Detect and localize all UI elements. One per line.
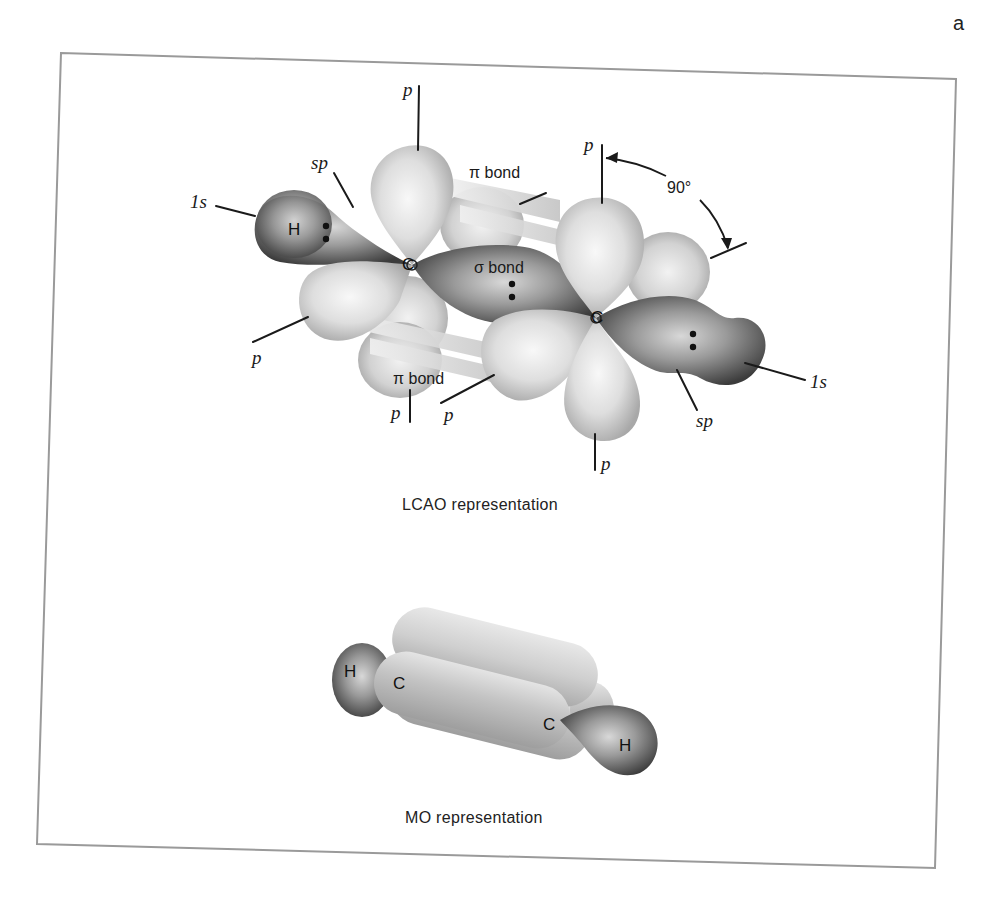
mo-label-carbon-right: C: [543, 716, 555, 733]
label-sigma-bond: σ bond: [474, 260, 524, 276]
label-p-top-right: p: [584, 135, 594, 154]
mo-diagram: [332, 601, 658, 776]
label-hydrogen-left: H: [288, 221, 300, 238]
label-1s-left: 1s: [190, 192, 207, 211]
label-sp-right: sp: [696, 411, 713, 430]
label-1s-right: 1s: [810, 372, 827, 391]
acetylene-orbital-figure: a: [0, 0, 991, 904]
label-pi-bond-top: π bond: [469, 165, 520, 181]
label-angle-90: 90°: [667, 180, 691, 196]
label-p-bottom-mid2: p: [444, 405, 454, 424]
label-p-bottom-right: p: [601, 454, 611, 473]
lcao-caption: LCAO representation: [402, 497, 558, 513]
lcao-diagram: [216, 86, 805, 470]
label-p-left-lower: p: [252, 348, 262, 367]
figure-graphics: [0, 0, 991, 904]
label-p-bottom-mid: p: [391, 403, 401, 422]
label-carbon-left: C: [402, 256, 414, 273]
label-sp-left: sp: [311, 153, 328, 172]
mo-label-hydrogen-right: H: [619, 737, 631, 754]
mo-label-hydrogen-left: H: [344, 663, 356, 680]
label-pi-bond-bottom: π bond: [393, 371, 444, 387]
mo-caption: MO representation: [405, 810, 543, 826]
mo-label-carbon-left: C: [393, 675, 405, 692]
label-p-top-left: p: [403, 80, 413, 99]
label-carbon-right: C: [591, 309, 603, 326]
